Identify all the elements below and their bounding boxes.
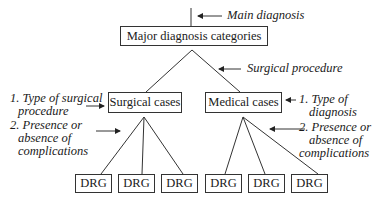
annotation-surgical-criteria-1b: procedure [18, 105, 68, 118]
annotation-medical-criteria-2c: complications [299, 147, 369, 160]
root-node-major-diagnosis-categories: Major diagnosis categories [120, 26, 268, 46]
leaf-drg: DRG [248, 174, 285, 193]
annotation-medical-criteria-1b: diagnosis [309, 106, 357, 119]
leaf-drg: DRG [75, 174, 112, 193]
annotation-surgical-procedure: Surgical procedure [247, 62, 342, 75]
leaf-drg: DRG [291, 174, 328, 193]
leaf-drg: DRG [161, 174, 198, 193]
leaf-drg: DRG [118, 174, 155, 193]
annotation-main-diagnosis: Main diagnosis [227, 9, 304, 22]
node-medical-cases: Medical cases [205, 92, 282, 113]
leaf-drg: DRG [205, 174, 242, 193]
node-surgical-cases: Surgical cases [108, 92, 182, 113]
annotation-surgical-criteria-2c: complications [18, 145, 88, 158]
